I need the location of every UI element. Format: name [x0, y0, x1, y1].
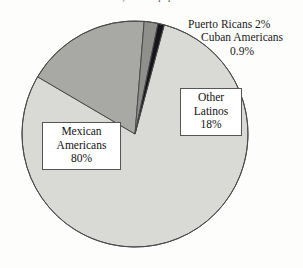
cuban-americans-line1: Cuban Americans [201, 31, 283, 45]
other-latinos-line2: Latinos [185, 105, 237, 119]
slice-label-other-latinos: Other Latinos 18% [180, 88, 242, 136]
mexican-americans-line2: Americans [47, 139, 116, 153]
mexican-americans-line1: Mexican [47, 125, 116, 139]
cuban-americans-value: 0.9% [201, 45, 283, 59]
mexican-americans-value: 80% [47, 152, 116, 166]
slice-label-mexican-americans: Mexican Americans 80% [42, 122, 121, 170]
other-latinos-value: 18% [185, 118, 237, 132]
other-latinos-line1: Other [185, 91, 237, 105]
pie-chart-figure: 1989, 20% of population Other Latinos 18… [0, 0, 303, 268]
slice-label-puerto-ricans: Puerto Ricans 2% [188, 18, 270, 32]
slice-label-cuban-americans: Cuban Americans 0.9% [201, 31, 283, 59]
